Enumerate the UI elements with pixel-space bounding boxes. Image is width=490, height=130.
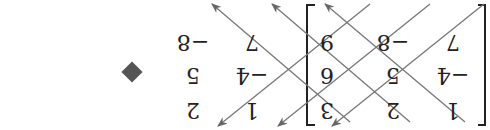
repeated-cell: 5: [186, 64, 200, 86]
repeated-cell: 1: [245, 99, 259, 121]
left-bracket: [478, 5, 485, 125]
matrix-cell: 1: [446, 99, 460, 121]
right-bracket: [307, 5, 315, 125]
repeated-cell: 7: [245, 31, 259, 53]
matrix-cell: 3: [320, 99, 334, 121]
repeated-cell: 2: [186, 99, 200, 121]
matrix-cell: 7: [446, 31, 460, 53]
matrix-cell: −8: [377, 31, 409, 53]
repeated-cell: −8: [177, 31, 209, 53]
matrix-cell: 9: [320, 31, 334, 53]
matrix-cell: 6: [320, 64, 334, 86]
matrix-cell: −4: [437, 64, 469, 86]
repeated-cell: −4: [236, 64, 268, 86]
sarrus-diagram: 1 2 3 −4 5 6 7 −8 9 1 2 −4 5 7 −8: [0, 0, 490, 130]
matrix-cell: 2: [386, 99, 400, 121]
matrix-cell: 5: [386, 64, 400, 86]
